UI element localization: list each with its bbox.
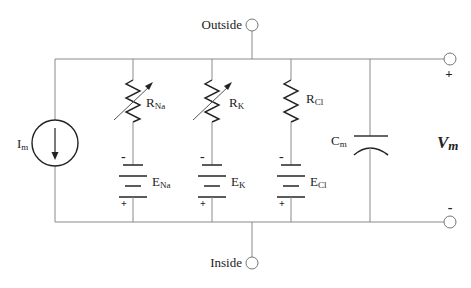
- branch-na: - + RNa ENa: [114, 59, 170, 222]
- inside-terminal-icon: [246, 257, 258, 269]
- branch-cl: - + RCl ECl: [277, 59, 327, 222]
- arrow-down-icon: [52, 152, 59, 160]
- cm-label: Cm: [331, 133, 347, 149]
- vm-plus-terminal-icon: [444, 53, 456, 65]
- r-na-label: RNa: [146, 95, 165, 111]
- pos-sign: +: [121, 198, 127, 209]
- resistor-icon: [284, 80, 298, 122]
- outside-label: Outside: [202, 17, 243, 32]
- r-cl-label: RCl: [306, 91, 324, 107]
- capacitor-plate-curved: [354, 148, 388, 155]
- pos-sign: +: [279, 198, 285, 209]
- r-k-label: RK: [229, 95, 245, 111]
- outside-terminal-icon: [246, 19, 258, 31]
- resistor-icon: [205, 80, 219, 122]
- variable-arrow-icon: [224, 82, 232, 90]
- branch-k: - + RK EK: [193, 59, 246, 222]
- minus-sign: -: [448, 200, 453, 215]
- e-k-label: EK: [231, 174, 246, 190]
- e-cl-label: ECl: [310, 174, 327, 190]
- vm-minus-terminal-icon: [444, 216, 456, 228]
- e-na-label: ENa: [152, 174, 170, 190]
- plus-sign: +: [445, 66, 452, 81]
- neg-sign: -: [121, 149, 126, 164]
- im-label: Im: [17, 136, 28, 152]
- resistor-icon: [126, 80, 140, 122]
- neg-sign: -: [200, 149, 205, 164]
- pos-sign: +: [200, 198, 206, 209]
- circuit-diagram: Outside Inside Im - + RNa ENa -: [0, 0, 471, 288]
- variable-arrow-icon: [145, 82, 153, 90]
- vm-label: Vm: [437, 133, 458, 153]
- inside-label: Inside: [210, 255, 242, 270]
- capacitor: Cm: [331, 59, 388, 222]
- neg-sign: -: [279, 149, 284, 164]
